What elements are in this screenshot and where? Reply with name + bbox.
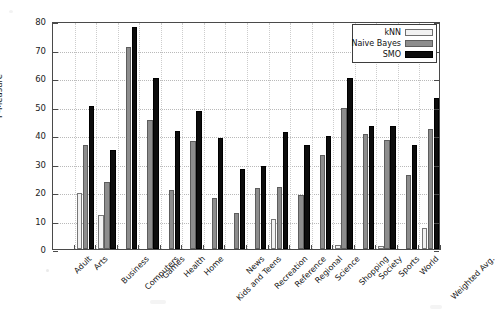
y-tick-mark: [434, 251, 439, 252]
y-tick-mark: [434, 194, 439, 195]
y-tick-mark: [434, 137, 439, 138]
legend-label-knn: kNN: [384, 28, 401, 37]
x-tick-mark: [311, 245, 312, 250]
bar-knn: [422, 228, 427, 249]
scan-speck: [430, 305, 442, 309]
x-tick-mark: [397, 245, 398, 250]
y-tick-label-30: 30: [22, 161, 46, 170]
x-tick-mark: [375, 245, 376, 250]
scan-speck: [150, 300, 166, 304]
legend-item-naive-bayes: Naive Bayes: [356, 38, 433, 48]
y-tick-label-50: 50: [22, 104, 46, 113]
y-tick-mark: [434, 223, 439, 224]
legend-swatch-knn: [405, 29, 433, 36]
legend-swatch-smo: [405, 51, 433, 58]
y-tick-label-10: 10: [22, 218, 46, 227]
x-tick-mark: [418, 245, 419, 250]
y-tick-mark: [434, 109, 439, 110]
legend: kNN Naive Bayes SMO: [352, 24, 437, 63]
x-tick-mark: [289, 245, 290, 250]
x-tick-mark: [246, 245, 247, 250]
y-tick-mark: [53, 194, 58, 195]
x-tick-label-world: World: [418, 255, 440, 277]
x-tick-mark: [268, 245, 269, 250]
bar-smo: [434, 98, 439, 249]
x-tick-mark: [203, 245, 204, 250]
y-tick-mark: [53, 137, 58, 138]
x-tick-mark: [52, 245, 53, 250]
y-tick-mark: [434, 166, 439, 167]
y-tick-mark: [53, 223, 58, 224]
x-tick-mark: [181, 245, 182, 250]
y-tick-mark: [434, 80, 439, 81]
x-tick-label-adult: Adult: [73, 255, 93, 275]
y-axis-title: F-Measure: [0, 74, 4, 118]
y-tick-mark: [53, 109, 58, 110]
x-tick-label-home: Home: [203, 255, 225, 277]
x-tick-label-health: Health: [182, 255, 206, 279]
x-tick-mark: [138, 245, 139, 250]
x-tick-mark: [354, 245, 355, 250]
y-tick-label-40: 40: [22, 132, 46, 141]
x-tick-mark: [160, 245, 161, 250]
x-tick-mark: [74, 245, 75, 250]
y-tick-mark: [53, 251, 58, 252]
legend-item-smo: SMO: [356, 49, 433, 59]
y-tick-mark: [53, 23, 58, 24]
bar-nb: [428, 129, 433, 249]
y-tick-label-60: 60: [22, 75, 46, 84]
scan-speck: [46, 269, 49, 272]
y-tick-mark: [53, 80, 58, 81]
x-tick-mark: [440, 245, 441, 250]
y-tick-mark: [53, 52, 58, 53]
x-tick-label-arts: Arts: [93, 255, 110, 272]
y-tick-label-70: 70: [22, 47, 46, 56]
legend-label-smo: SMO: [383, 50, 401, 59]
y-tick-label-80: 80: [22, 18, 46, 27]
legend-label-naive-bayes: Naive Bayes: [351, 39, 401, 48]
legend-item-knn: kNN: [356, 27, 433, 37]
legend-swatch-naive-bayes: [405, 40, 433, 47]
y-tick-mark: [53, 166, 58, 167]
x-tick-mark: [224, 245, 225, 250]
x-tick-label-games: Games: [161, 255, 186, 280]
scan-speck: [9, 10, 13, 13]
x-tick-label-weighted-avg: Weighted Avg.: [450, 255, 497, 302]
x-tick-mark: [332, 245, 333, 250]
x-tick-mark: [117, 245, 118, 250]
y-tick-label-20: 20: [22, 189, 46, 198]
x-tick-mark: [95, 245, 96, 250]
y-tick-label-0: 0: [22, 246, 46, 255]
